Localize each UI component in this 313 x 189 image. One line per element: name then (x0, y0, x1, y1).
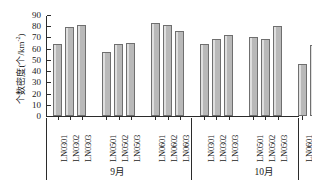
y-axis-tick-label: 60 (32, 44, 41, 54)
bar (77, 25, 86, 116)
y-axis-tick-label: 50 (32, 55, 41, 65)
y-axis-tick-label: 80 (32, 21, 41, 31)
y-axis-title-close: ) (16, 34, 26, 37)
y-axis-tick-label: 70 (32, 32, 41, 42)
x-axis-label: LN0601 (158, 116, 167, 162)
bar (224, 35, 233, 116)
y-axis-tick-label: 10 (32, 100, 41, 110)
y-axis-tick-label: 30 (32, 77, 41, 87)
month-group-labels: 9月10月 (46, 164, 299, 184)
x-axis-label: LN0602 (170, 116, 179, 162)
y-axis-tick-label: 90 (32, 10, 41, 20)
y-axis-tick-label: 20 (32, 89, 41, 99)
bar (163, 25, 172, 116)
y-axis-title: 个数密度(个/km-2) (13, 9, 26, 129)
x-axis-label: LN0302 (72, 116, 81, 162)
bar (102, 52, 111, 116)
month-label: 9月 (110, 167, 125, 178)
y-axis-tick-mark (47, 116, 51, 117)
y-axis-tick-label: 0 (37, 111, 42, 121)
x-axis-label: LN0302 (219, 116, 228, 162)
x-axis-label: LN0503 (133, 116, 142, 162)
bar (53, 44, 62, 116)
bar (65, 27, 74, 116)
y-axis-tick-label: 40 (32, 66, 41, 76)
x-axis-label: LN0301 (207, 116, 216, 162)
bar (273, 26, 282, 116)
x-axis-tick-mark (302, 116, 303, 120)
bar (126, 43, 135, 116)
bar (114, 44, 123, 116)
bar-series (47, 16, 299, 116)
plot-area: 9080706050403020100 (46, 16, 299, 117)
bar (212, 39, 221, 116)
x-axis-label: LN0301 (60, 116, 69, 162)
month-label: 10月 (255, 167, 275, 178)
bar (298, 64, 307, 116)
x-axis-label: LN0502 (268, 116, 277, 162)
bar (151, 23, 160, 116)
bar-chart: 个数密度(个/km-2) 9080706050403020100 LN0301L… (0, 0, 312, 189)
y-axis-title-exponent: -2 (15, 37, 21, 42)
x-axis-label: LN0502 (121, 116, 130, 162)
x-axis-label: LN0501 (109, 116, 118, 162)
bar (310, 45, 312, 116)
y-axis-title-main: 个数密度(个/km (16, 42, 26, 104)
bar (200, 44, 209, 116)
bar (249, 37, 258, 116)
x-axis-labels: LN0301LN0302LN0303LN0501LN0502LN0503LN06… (46, 118, 299, 164)
x-axis-label: LN0503 (280, 116, 289, 162)
bar (175, 31, 184, 116)
x-axis-label: LN0303 (231, 116, 240, 162)
x-axis-label: LN0303 (84, 116, 93, 162)
x-axis-label: LN0603 (182, 116, 191, 162)
bar (261, 39, 270, 116)
x-axis-label: LN0601 (305, 116, 313, 162)
x-axis-label: LN0501 (256, 116, 265, 162)
